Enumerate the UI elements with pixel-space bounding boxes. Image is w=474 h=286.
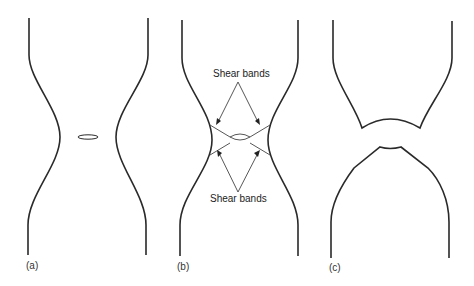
shear-bands-label-bottom: Shear bands (210, 193, 267, 204)
fracture-diagram (0, 0, 474, 286)
arrow-bottom-left (219, 153, 238, 192)
arrowhead-top-right (255, 118, 260, 125)
panel-c-label: (c) (329, 262, 341, 273)
arrow-top-right (238, 82, 258, 122)
panel-b-shear-band-right (250, 125, 270, 155)
panel-a-void (78, 135, 98, 139)
panel-c-lower-half (331, 147, 449, 258)
panel-c-upper-half (333, 20, 452, 128)
panel-a-label: (a) (26, 260, 38, 271)
panel-a-left-profile (28, 18, 60, 255)
arrow-top-left (218, 82, 238, 122)
arrowhead-bottom-left (217, 150, 222, 157)
panel-b-right-profile (268, 20, 298, 256)
shear-bands-label-top: Shear bands (213, 68, 270, 79)
panel-a-right-profile (116, 18, 148, 255)
panel-b-label: (b) (177, 261, 189, 272)
panel-b-void (230, 134, 250, 140)
arrowhead-top-left (216, 118, 221, 125)
arrow-bottom-right (238, 153, 258, 192)
panel-b-shear-band-left (210, 125, 230, 155)
arrowhead-bottom-right (254, 150, 260, 157)
panel-b-left-profile (180, 20, 212, 256)
